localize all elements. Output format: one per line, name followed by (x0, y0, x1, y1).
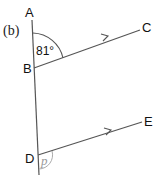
angle-label-p: p (40, 153, 48, 168)
line-de (38, 122, 142, 155)
parallel-arrow-icon (101, 34, 108, 41)
angle-label-abc: 81° (36, 44, 54, 58)
point-label-b: B (23, 61, 32, 76)
point-label-c: C (142, 20, 151, 35)
point-label-e: E (144, 114, 153, 129)
point-label-d: D (25, 151, 34, 166)
parallel-lines-diagram: (b) A B C D E 81° p (0, 0, 161, 175)
point-label-a: A (25, 5, 34, 20)
part-label: (b) (3, 23, 20, 39)
